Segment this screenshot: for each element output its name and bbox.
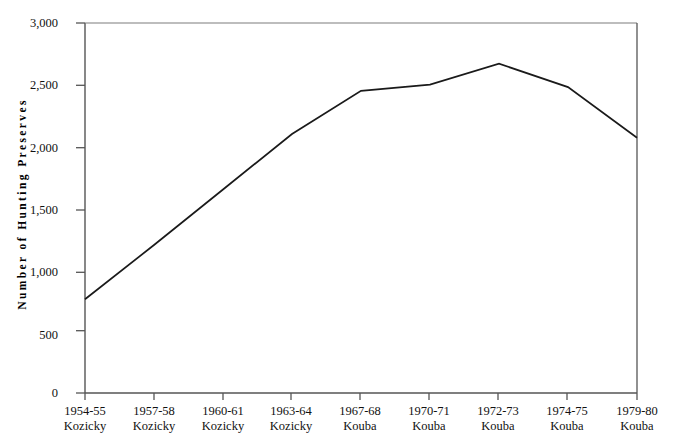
x-tick-label-8: 1979-80 Kouba bbox=[592, 404, 676, 434]
x-axis-ticks bbox=[85, 393, 637, 400]
chart-figure: Number of Hunting Preserves 3,000 2,500 … bbox=[0, 0, 676, 442]
x-tick-label-8-source: Kouba bbox=[592, 419, 676, 434]
data-series-line bbox=[85, 64, 637, 300]
plot-area bbox=[0, 0, 676, 442]
x-tick-label-8-period: 1979-80 bbox=[592, 404, 676, 419]
axis-lines bbox=[85, 23, 637, 393]
y-axis-ticks bbox=[76, 23, 85, 393]
